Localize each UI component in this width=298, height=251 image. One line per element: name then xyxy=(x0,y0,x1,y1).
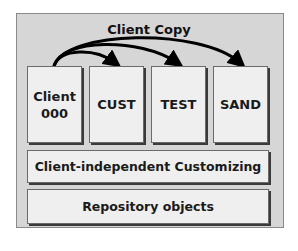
client-independent-customizing-layer: Client-independent Customizing xyxy=(27,150,269,183)
client-cust-box: CUST xyxy=(89,66,144,143)
client-sand-box: SAND xyxy=(213,66,268,143)
client-test-box: TEST xyxy=(151,66,206,143)
client-000-label-line1: Client xyxy=(33,88,76,105)
client-sand-label: SAND xyxy=(220,96,261,113)
client-test-label: TEST xyxy=(161,96,197,113)
repository-objects-layer: Repository objects xyxy=(27,189,269,224)
layer-label: Client-independent Customizing xyxy=(35,158,262,175)
client-000-box: Client 000 xyxy=(27,66,82,143)
client-cust-label: CUST xyxy=(97,96,135,113)
client-000-label-line2: 000 xyxy=(33,105,76,122)
layer-label: Repository objects xyxy=(82,198,214,215)
